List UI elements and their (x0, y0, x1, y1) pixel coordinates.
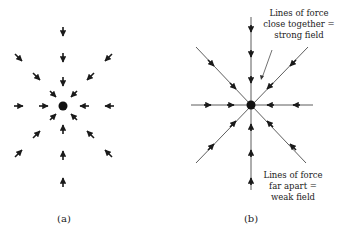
svg-text:Lines of force: Lines of force (269, 8, 328, 18)
label-b: (b) (244, 213, 258, 224)
field-diagram: (a) Lines (0, 0, 342, 237)
svg-text:strong field: strong field (274, 30, 324, 40)
annotation-pointer (262, 50, 272, 78)
label-a: (a) (57, 213, 71, 224)
charge-b (247, 101, 256, 110)
charge-a (59, 102, 68, 111)
svg-text:close together =: close together = (263, 19, 335, 29)
svg-text:Lines of force: Lines of force (263, 170, 322, 180)
annotation-strong-field: Lines of force close together = strong f… (263, 8, 335, 40)
annotation-weak-field: Lines of force far apart = weak field (263, 170, 322, 202)
svg-text:weak field: weak field (271, 192, 316, 202)
svg-text:far apart =: far apart = (269, 181, 317, 191)
